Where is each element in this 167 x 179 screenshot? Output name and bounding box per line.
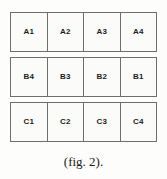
cell-b3: B3 xyxy=(48,58,85,96)
diagram-row-b: B4 B3 B2 B1 xyxy=(10,57,157,97)
cell-c2: C2 xyxy=(48,103,85,141)
cell-label: B2 xyxy=(96,73,107,81)
cell-label: C4 xyxy=(133,118,144,126)
cell-c4: C4 xyxy=(121,103,157,141)
cell-a4: A4 xyxy=(121,13,157,51)
cell-c1: C1 xyxy=(11,103,48,141)
figure-container: A1 A2 A3 A4 B4 B3 B2 B1 xyxy=(0,0,167,179)
diagram-row-c: C1 C2 C3 C4 xyxy=(10,102,157,142)
cell-a1: A1 xyxy=(11,13,48,51)
cell-a2: A2 xyxy=(48,13,85,51)
cell-label: C3 xyxy=(96,118,107,126)
cell-label: B1 xyxy=(133,73,144,81)
cell-c3: C3 xyxy=(84,103,121,141)
cell-label: C1 xyxy=(23,118,34,126)
figure-caption: (fig. 2). xyxy=(0,155,167,168)
cell-b1: B1 xyxy=(121,58,157,96)
diagram-row-a: A1 A2 A3 A4 xyxy=(10,12,157,52)
cell-label: C2 xyxy=(60,118,71,126)
cell-label: B4 xyxy=(23,73,34,81)
cell-label: A3 xyxy=(96,28,107,36)
block-diagram: A1 A2 A3 A4 B4 B3 B2 B1 xyxy=(10,12,157,147)
cell-label: A1 xyxy=(23,28,34,36)
cell-b4: B4 xyxy=(11,58,48,96)
cell-label: A4 xyxy=(133,28,144,36)
cell-a3: A3 xyxy=(84,13,121,51)
cell-label: A2 xyxy=(60,28,71,36)
cell-b2: B2 xyxy=(84,58,121,96)
cell-label: B3 xyxy=(60,73,71,81)
